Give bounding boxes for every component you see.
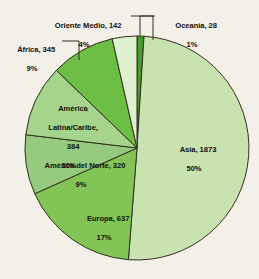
- slice-label-oceania-text: Oceanía, 28: [175, 21, 217, 30]
- pie-chart: Oriente Medio, 142 4% África, 345 9% Oce…: [0, 0, 259, 279]
- slice-label-oceania-percent: 1%: [155, 40, 229, 49]
- slice-label-africa-percent: 9%: [2, 64, 62, 73]
- slice-label-america-latina-line2: Latina/Caribe,: [48, 123, 98, 132]
- slice-label-america-latina-line3: 384: [67, 142, 80, 151]
- slice-label-america-del-norte-percent: 9%: [18, 180, 144, 189]
- slice-label-america-del-norte: América del Norte, 320 9%: [18, 152, 144, 208]
- slice-label-oriente-medio-text: Oriente Medio, 142: [55, 21, 122, 30]
- slice-label-europa: Europa, 637 17%: [57, 205, 151, 261]
- slice-label-asia-text: Asia, 1873: [180, 145, 217, 154]
- slice-label-asia-percent: 50%: [156, 164, 232, 173]
- slice-label-europa-percent: 17%: [57, 233, 151, 242]
- slice-label-america-del-norte-text: América del Norte, 320: [45, 161, 126, 170]
- slice-label-europa-text: Europa, 637: [87, 214, 130, 223]
- slice-label-oceania: Oceanía, 28 1%: [155, 12, 229, 68]
- slice-label-africa: África, 345 9%: [2, 36, 62, 92]
- slice-label-america-latina-line1: América: [58, 104, 88, 113]
- slice-label-africa-text: África, 345: [17, 45, 55, 54]
- slice-label-asia: Asia, 1873 50%: [156, 136, 232, 192]
